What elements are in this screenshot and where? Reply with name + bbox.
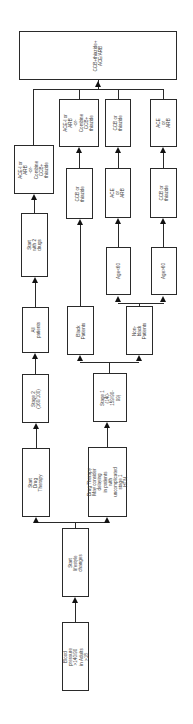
nonblack-patients-box: Non-black Patients — [126, 306, 153, 355]
arrowhead-icon — [76, 147, 82, 153]
connector-bp-lifestyle — [75, 602, 76, 622]
ace-arb-combo-left-label: ACE-I or ARB -or- Combine CCB+ thiazide — [18, 160, 49, 179]
ccb-thiazide-lt60-box: CCB or thiazide — [105, 99, 131, 147]
connector-stage1-split — [109, 362, 110, 373]
arrowhead-icon — [115, 147, 121, 153]
arrowhead-icon — [136, 355, 142, 361]
connector-c-up — [163, 89, 164, 99]
ace-arb-combo-black-label: ACE-I or ARB -or- Combine CCB+ thiazide — [63, 114, 94, 133]
arrowhead-icon — [95, 81, 101, 87]
start-drug-therapy-box: Start Drug Therapy — [22, 448, 50, 517]
age-gt60-label: Age>60 — [161, 263, 166, 279]
black-patients-box: Black Patients — [67, 306, 94, 355]
black-patients-label: Black Patients — [75, 322, 85, 339]
all-patients-label: All patients — [30, 322, 40, 338]
ccb-thiazide-lt60-label: CCB or thiazide — [113, 115, 123, 131]
ace-arb-gt60-label: ACE or ARB — [156, 117, 172, 130]
blood-pressure-label: Blood pressure >140/90 in Adults >18 — [62, 648, 88, 666]
connector-split-bus-2 — [80, 362, 139, 363]
connector-dt-stage1 — [107, 427, 108, 447]
arrowhead-icon — [104, 422, 110, 428]
start-two-drugs-label: Start with 2 drugs — [27, 239, 43, 252]
arrowhead-icon — [32, 353, 38, 359]
connector-2drugs-combo — [34, 199, 35, 213]
stage2-box: Stage 2 (160/100) — [22, 374, 49, 423]
arrowhead-icon — [77, 355, 83, 361]
start-two-drugs-box: Start with 2 drugs — [21, 213, 48, 277]
arrowhead-icon — [32, 277, 38, 283]
final-combination-box: CCB+thiazide+ ACE/ARB — [19, 31, 177, 80]
drug-therapy-stage1-box: Drug Therapy May consider delaying in pa… — [88, 447, 127, 517]
arrowhead-icon — [104, 517, 110, 523]
start-drug-therapy-label: Start Drug Therapy — [28, 474, 44, 491]
stage1-label: Stage 1 (140-159/90- 99) — [100, 390, 121, 406]
arrowhead-icon — [160, 218, 166, 224]
ace-arb-lt60-label: ACE or ARB — [110, 187, 126, 199]
arrowhead-icon — [115, 218, 121, 224]
ccb-thiazide-gt60-box: CCB or thiazide — [150, 168, 177, 218]
connector-top-bus — [33, 89, 164, 90]
connector-lt60-acearb — [118, 224, 119, 247]
connector-ccb-combo-black — [79, 153, 80, 168]
connector-black-ccb — [80, 224, 81, 306]
arrowhead-icon — [77, 219, 83, 225]
final-combination-label: CCB+thiazide+ ACE/ARB — [93, 40, 103, 71]
arrowhead-icon — [31, 194, 37, 200]
connector-gt60-ccb — [163, 224, 164, 247]
ccb-thiazide-black-label: CCB or thiazide — [74, 186, 84, 202]
connector-ccb-acearb-gt60 — [163, 153, 164, 168]
connector-sdt-stage2 — [36, 428, 37, 448]
connector-stage2-all — [35, 358, 36, 374]
arrowhead-icon — [33, 423, 39, 429]
connector-split-bus-3 — [118, 303, 164, 304]
blood-pressure-box: Blood pressure >140/90 in Adults >18 — [62, 622, 89, 691]
connector-acearb-ccb-lt60 — [118, 153, 119, 168]
arrowhead-icon — [160, 296, 166, 302]
stage2-label: Stage 2 (160/100) — [30, 389, 40, 409]
ace-arb-lt60-box: ACE or ARB — [105, 168, 131, 218]
arrowhead-icon — [33, 517, 39, 523]
connector-left-up — [33, 89, 34, 145]
nonblack-patients-label: Non-black Patients — [132, 322, 148, 339]
connector-b-up — [118, 89, 119, 99]
stage1-box: Stage 1 (140-159/90- 99) — [93, 373, 127, 422]
arrowhead-icon — [160, 147, 166, 153]
connector-a-up — [79, 89, 80, 99]
age-lt60-box: Age<60 — [106, 247, 131, 295]
age-lt60-label: Age<60 — [116, 263, 121, 279]
connector-all-2drugs — [35, 282, 36, 307]
age-gt60-box: Age>60 — [151, 247, 177, 295]
all-patients-box: All patients — [22, 307, 49, 353]
lifestyle-label: Start lifestyle changes — [68, 554, 84, 571]
connector-split-bus-1 — [36, 522, 108, 523]
ccb-thiazide-gt60-label: CCB or thiazide — [158, 185, 168, 201]
ccb-thiazide-black-box: CCB or thiazide — [66, 168, 93, 219]
ace-arb-combo-left-box: ACE-I or ARB -or- Combine CCB+ thiazide — [14, 145, 54, 194]
arrowhead-icon — [115, 296, 121, 302]
ace-arb-gt60-box: ACE or ARB — [150, 99, 177, 147]
drug-therapy-stage1-label: Drug Therapy May consider delaying in pa… — [87, 467, 129, 497]
lifestyle-box: Start lifestyle changes — [62, 528, 89, 597]
arrowhead-icon — [72, 597, 78, 603]
ace-arb-combo-black-box: ACE-I or ARB -or- Combine CCB+ thiazide — [59, 99, 99, 147]
